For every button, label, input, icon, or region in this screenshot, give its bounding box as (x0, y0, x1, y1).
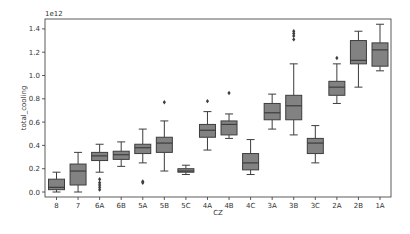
y-tick-label: 0.4 (29, 142, 41, 150)
x-tick-label: 2B (354, 202, 363, 210)
iqr-box (70, 164, 86, 185)
box-6A (92, 144, 108, 192)
iqr-box (329, 81, 345, 95)
box-1A (372, 24, 388, 71)
boxplot-chart: 0.00.20.40.60.81.01.21.4 876A6B5A5B5C4A4… (0, 0, 410, 234)
iqr-box (307, 138, 323, 153)
iqr-box (135, 144, 151, 153)
iqr-box (286, 95, 302, 119)
outlier-marker (206, 99, 209, 103)
x-tick-label: 4C (246, 202, 255, 210)
y-tick-label: 1.2 (29, 49, 40, 57)
outlier-marker (292, 29, 295, 33)
box-4A (199, 99, 215, 150)
y-offset-text: 1e12 (45, 10, 63, 18)
box-3B (286, 29, 302, 135)
boxes-layer (49, 24, 389, 192)
y-tick-label: 0.8 (29, 95, 40, 103)
box-7 (70, 152, 86, 192)
box-5C (178, 165, 194, 174)
iqr-box (49, 179, 65, 189)
plot-frame (45, 19, 391, 197)
x-tick-label: 7 (76, 202, 80, 210)
x-tick-label: 6A (95, 202, 104, 210)
x-tick-label: 4A (203, 202, 212, 210)
x-tick-label: 5B (160, 202, 169, 210)
x-tick-label: 8 (54, 202, 58, 210)
x-tick-label: 3A (268, 202, 277, 210)
y-tick-label: 0.6 (29, 119, 41, 127)
x-tick-label: 3C (311, 202, 320, 210)
box-2B (350, 31, 366, 87)
x-tick-label: 4B (224, 202, 233, 210)
outlier-marker (227, 91, 230, 95)
box-4B (221, 91, 237, 139)
x-tick-label: 2A (332, 202, 341, 210)
outlier-marker (335, 56, 338, 60)
x-tick-label: 6B (117, 202, 126, 210)
y-tick-label: 1.0 (29, 72, 40, 80)
box-5B (156, 100, 172, 171)
iqr-box (221, 121, 237, 135)
box-4C (243, 140, 259, 175)
y-tick-label: 0.0 (29, 189, 40, 197)
iqr-box (264, 103, 280, 119)
box-3C (307, 126, 323, 163)
box-3A (264, 94, 280, 129)
y-axis-label: total_cooling (20, 86, 28, 131)
x-axis-label: CZ (213, 209, 223, 217)
iqr-box (156, 137, 172, 152)
y-axis: 0.00.20.40.60.81.01.21.4 (29, 25, 45, 196)
x-tick-label: 1A (375, 202, 384, 210)
iqr-box (243, 154, 259, 170)
box-2A (329, 56, 345, 104)
box-5A (135, 129, 151, 185)
x-tick-label: 5A (138, 202, 147, 210)
x-tick-label: 3B (289, 202, 298, 210)
y-tick-label: 0.2 (29, 165, 40, 173)
box-6B (113, 142, 129, 166)
y-tick-label: 1.4 (29, 25, 41, 33)
outlier-marker (163, 100, 166, 104)
x-tick-label: 5C (181, 202, 190, 210)
box-8 (49, 172, 65, 192)
outlier-marker (98, 187, 101, 191)
iqr-box (372, 43, 388, 66)
